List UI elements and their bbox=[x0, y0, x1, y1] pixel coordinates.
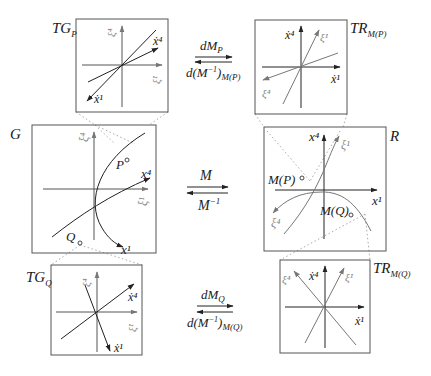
x1-curve bbox=[95, 133, 145, 247]
panel-title-tg-p: TGP bbox=[52, 20, 77, 39]
point-label-p: P bbox=[115, 157, 124, 172]
curve-label-x1: x¹ bbox=[120, 242, 131, 257]
curve-label-xi1: ξ¹ bbox=[341, 138, 350, 152]
map-arrows-bottom bbox=[197, 306, 233, 312]
curve-label-xi4: ξ⁴ bbox=[271, 216, 280, 230]
panel-r bbox=[264, 127, 386, 251]
axis-label-xi4dot: ξ̇⁴ bbox=[80, 278, 93, 287]
panel-title-r: R bbox=[389, 128, 399, 144]
map-arrows-top bbox=[195, 57, 232, 62]
axis-label-xi1: ξ¹ bbox=[136, 197, 150, 206]
panel-tr-mq bbox=[280, 260, 370, 353]
panel-title-tr-mq: TRM(Q) bbox=[373, 260, 411, 279]
label-dMP: dMP bbox=[200, 38, 223, 55]
vector-label-x4dot: ẋ⁴ bbox=[152, 34, 163, 48]
vector-label-xi1dot: ξ̇¹ bbox=[320, 31, 329, 44]
panel-title-tr-mp: TRM(P) bbox=[350, 20, 387, 39]
panel-g bbox=[32, 125, 156, 253]
label-dMinv-MP: d(M−1)M(P) bbox=[186, 65, 240, 82]
panel-title-tg-q: TGQ bbox=[26, 269, 52, 288]
vector-label-x1dot: ẋ¹ bbox=[93, 92, 103, 106]
axis-label-x4dot: ẋ⁴ bbox=[284, 28, 295, 42]
vector-label-xi1dot: ξ̇¹ bbox=[345, 271, 354, 284]
point-mq bbox=[349, 213, 353, 217]
label-dMQ: dMQ bbox=[201, 287, 225, 304]
map-arrows-middle bbox=[187, 187, 228, 193]
label-Minv: M−1 bbox=[197, 196, 220, 213]
vector-label-x1dot: ẋ¹ bbox=[113, 341, 123, 355]
vector-label-xi4dot: ξ̇⁴ bbox=[282, 273, 291, 286]
point-p bbox=[125, 158, 129, 162]
point-label-mp: M(P) bbox=[267, 172, 295, 187]
label-dMinv-MQ: d(M−1)M(Q) bbox=[187, 315, 242, 332]
curve-label-x4: x⁴ bbox=[140, 166, 152, 181]
axis-label-xi1dot: ξ̇¹ bbox=[126, 323, 139, 332]
axis-label-x4dot: ẋ⁴ bbox=[308, 269, 319, 283]
axis-label-xi4dot: ξ̇⁴ bbox=[105, 28, 118, 37]
axis-label-xi4: ξ⁴ bbox=[77, 133, 91, 142]
label-M: M bbox=[199, 168, 213, 183]
point-label-mq: M(Q) bbox=[319, 203, 349, 218]
axis-label-x1: x¹ bbox=[371, 193, 382, 208]
vector-label-x4dot: ẋ⁴ bbox=[127, 290, 138, 304]
axis-label-x4: x⁴ bbox=[308, 129, 320, 144]
panel-tg-p bbox=[76, 19, 168, 112]
point-mp bbox=[300, 176, 304, 180]
panel-tr-mp bbox=[255, 20, 347, 114]
axis-label-x1dot: ẋ¹ bbox=[354, 314, 364, 328]
vector-label-xi4dot: ξ̇⁴ bbox=[262, 87, 271, 100]
panel-title-g: G bbox=[10, 126, 21, 142]
point-q bbox=[78, 241, 82, 245]
panel-frame bbox=[264, 127, 386, 251]
axis-label-x1dot: ẋ¹ bbox=[330, 72, 340, 86]
axis-label-xi1dot: ξ̇¹ bbox=[150, 75, 163, 84]
diagram-canvas: TGP ξ̇⁴ ξ̇¹ ẋ⁴ ẋ¹ TRM(P) ẋ⁴ ẋ¹ ξ̇¹ ξ̇⁴ G… bbox=[0, 0, 431, 376]
point-label-q: Q bbox=[66, 229, 76, 244]
panel-tg-q bbox=[51, 265, 142, 355]
